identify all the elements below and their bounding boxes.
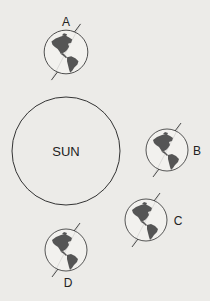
- sun-label: SUN: [52, 144, 79, 159]
- orbit-diagram: SUN A B C D: [0, 0, 210, 301]
- earth-position-a[interactable]: A: [44, 15, 88, 80]
- earth-position-c[interactable]: C: [125, 193, 183, 247]
- position-label-c: C: [174, 214, 183, 228]
- sun: SUN: [12, 97, 120, 205]
- earth-position-b[interactable]: B: [146, 123, 201, 177]
- position-label-d: D: [64, 276, 73, 290]
- position-label-a: A: [62, 15, 70, 29]
- position-label-b: B: [193, 144, 201, 158]
- earth-position-d[interactable]: D: [45, 223, 87, 290]
